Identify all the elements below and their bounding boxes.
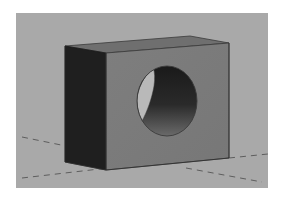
model-render[interactable] (16, 13, 268, 188)
block-side-face[interactable] (65, 46, 106, 170)
3d-viewport[interactable]: 3D model viewport (16, 13, 268, 188)
screenshot-canvas: 3D model viewport (0, 0, 282, 199)
through-hole[interactable] (137, 66, 197, 136)
